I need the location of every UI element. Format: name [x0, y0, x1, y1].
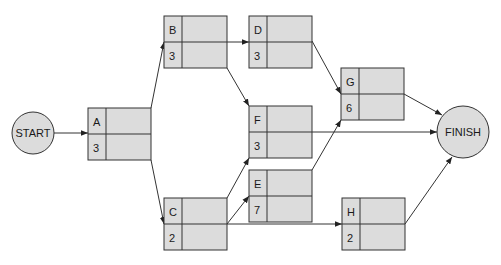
activity-b: B 3 [164, 16, 227, 68]
activity-d: D 3 [249, 16, 312, 68]
activity-e: E 7 [249, 170, 312, 222]
activity-g: G 6 [341, 68, 404, 120]
activity-id: G [346, 76, 355, 88]
edge-d-g [312, 41, 341, 94]
activity-duration: 3 [254, 50, 260, 62]
activity-duration: 2 [347, 232, 353, 244]
start-label: START [15, 127, 50, 139]
activity-f: F 3 [249, 106, 312, 158]
edge-c-f [227, 158, 249, 198]
edge-g-finish [404, 94, 442, 115]
activity-duration: 3 [93, 142, 99, 154]
activity-h: H 2 [342, 198, 405, 250]
start-node: START [12, 112, 54, 154]
activity-id: H [347, 206, 355, 218]
finish-label: FINISH [445, 126, 481, 138]
activity-duration: 3 [169, 50, 175, 62]
edge-a-b [151, 42, 164, 108]
edge-b-f [227, 68, 249, 106]
activity-duration: 7 [254, 204, 260, 216]
activity-id: A [93, 116, 101, 128]
activity-c: C 2 [164, 198, 227, 250]
edge-a-c [151, 160, 164, 224]
activity-id: F [254, 114, 261, 126]
edge-c-e [227, 196, 249, 224]
activity-id: E [254, 178, 261, 190]
activity-duration: 6 [346, 102, 352, 114]
activity-duration: 2 [169, 232, 175, 244]
activity-id: D [254, 24, 262, 36]
finish-node: FINISH [437, 106, 489, 158]
activity-duration: 3 [254, 140, 260, 152]
activity-id: C [169, 206, 177, 218]
network-diagram: START FINISH A 3 B 3 C 2 D 3 E 7 [0, 0, 501, 265]
activity-a: A 3 [88, 108, 151, 160]
edge-h-finish [405, 157, 452, 224]
edge-e-g [312, 120, 341, 170]
activity-id: B [169, 24, 176, 36]
